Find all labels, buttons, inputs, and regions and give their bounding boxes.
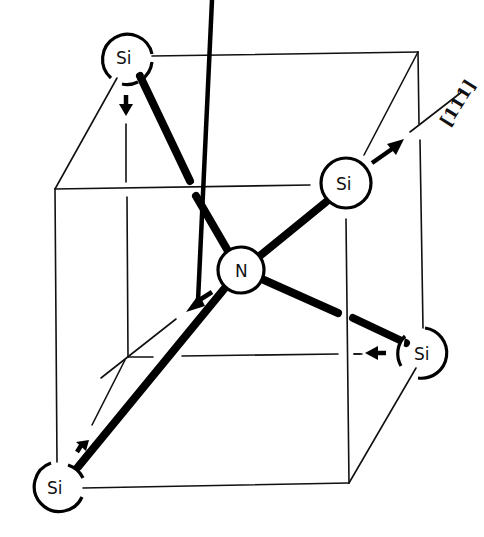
bond-n-si-bottom-left xyxy=(78,283,229,467)
cube-edge-back-right-upper xyxy=(418,52,419,124)
cube-edge-front-right xyxy=(346,219,349,483)
cube-edge-back-top xyxy=(152,52,418,56)
bond-n-si-upper-right xyxy=(256,202,326,259)
cube-edge-back-bottom-b xyxy=(182,354,338,356)
atom-si-upper-right: Si xyxy=(321,158,371,208)
cube-edge-front-bottom xyxy=(83,483,349,488)
atom-label: Si xyxy=(116,48,132,68)
atom-si-top-left: Si xyxy=(103,34,152,84)
cube-edge-front-top xyxy=(55,185,310,189)
arrow-111-upper-right-si xyxy=(372,139,404,163)
cube-edge-bottom-left-diagonal xyxy=(101,319,176,378)
atom-label: Si xyxy=(336,174,352,194)
arrow-down-top-left-si xyxy=(119,95,133,116)
arrow-n-toward-bottom-left xyxy=(186,0,212,312)
lattice-diagram: Si Si N Si Si [111] xyxy=(0,0,484,537)
cube-edge-front-left xyxy=(55,189,57,462)
cube-edge-back-right-lower xyxy=(420,140,423,328)
atom-si-bottom-left: Si xyxy=(34,463,83,512)
arrow-left-lower-right-si xyxy=(354,346,386,360)
atom-n-center: N xyxy=(218,247,264,293)
diagram-stage: Si Si N Si Si [111] xyxy=(0,0,484,537)
bond-n-si-lower-right-a xyxy=(264,280,338,313)
bond-n-si-lower-right-b xyxy=(353,318,406,343)
cube-edge-top-left-diagonal xyxy=(55,78,117,189)
cube-edge-top-right-diagonal xyxy=(364,52,418,155)
atom-label: Si xyxy=(414,344,430,364)
direction-label-111: [111] xyxy=(435,76,479,130)
bond-n-si-top-left xyxy=(140,76,190,181)
atom-label: N xyxy=(235,261,248,281)
cube-edge-bottom-right-diagonal xyxy=(349,368,416,483)
atom-label: Si xyxy=(47,478,63,498)
cube-edge-back-left-lower xyxy=(127,197,128,357)
atom-si-lower-right: Si xyxy=(398,328,447,378)
